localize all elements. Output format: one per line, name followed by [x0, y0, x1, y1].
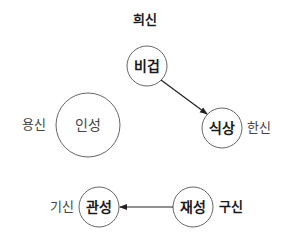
- role-label-huisin: 희신: [133, 12, 157, 28]
- node-label-inseong: 인성: [75, 117, 101, 133]
- node-label-jaeseong: 재성: [180, 199, 206, 215]
- role-label-yongsin: 용신: [22, 117, 46, 133]
- node-label-bigeop: 비겁: [134, 58, 160, 74]
- arrow-bigeop-to-siksang: [161, 80, 207, 114]
- role-label-gisin: 기신: [50, 199, 74, 215]
- role-label-hansin: 한신: [247, 120, 271, 136]
- role-label-gusin: 구신: [219, 199, 243, 215]
- node-label-siksang: 식상: [209, 120, 235, 136]
- node-label-gwanseong: 관성: [86, 199, 112, 215]
